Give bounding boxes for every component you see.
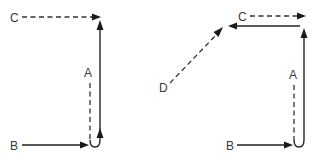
arrowhead-right-icon <box>92 14 101 21</box>
left-panel: C A B <box>10 11 104 153</box>
u-turn-left <box>90 140 100 147</box>
arrowhead-left-icon <box>228 23 237 30</box>
label-a-right: A <box>289 68 297 82</box>
u-turn-right <box>294 140 304 147</box>
arrowhead-up-icon <box>97 20 104 30</box>
right-panel: C D A B <box>159 10 308 153</box>
label-a-left: A <box>84 66 92 80</box>
arrowhead-up-right-icon <box>214 27 224 37</box>
arrowhead-up-icon <box>97 128 104 138</box>
diagram-canvas: C A B C D A B <box>0 0 323 158</box>
label-c-right: C <box>238 10 247 24</box>
label-d-right: D <box>159 81 168 95</box>
arrowhead-right-icon <box>297 13 306 20</box>
dashed-diagonal-d <box>170 34 217 83</box>
label-b-left: B <box>10 139 18 153</box>
arrowhead-up-icon <box>301 28 308 38</box>
arrowhead-right-icon <box>80 142 89 149</box>
label-b-right: B <box>226 139 234 153</box>
label-c-left: C <box>10 11 19 25</box>
arrowhead-right-icon <box>284 142 293 149</box>
